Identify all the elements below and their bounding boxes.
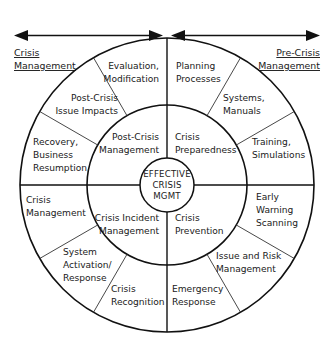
outer-label-5-line2: Recognition <box>111 297 165 307</box>
inner-segment-crisis-preparedness: Crisis Preparedness <box>175 132 237 155</box>
outer-label-10-line2: Manuals <box>223 106 261 116</box>
outer-label-10-line1: Systems, <box>223 93 265 103</box>
axis-label-left-line2: Management <box>14 60 76 71</box>
outer-segment-crisis-recognition: Crisis Recognition <box>111 284 165 307</box>
outer-label-4-line2: Activation/ <box>63 260 113 270</box>
outer-segment-post-crisis-issue-impacts: Post-Crisis Issue Impacts <box>55 93 118 116</box>
inner-label-0-line2: Management <box>99 145 159 155</box>
axis-label-right: Pre-Crisis Management <box>258 47 320 71</box>
outer-label-5-line1: Crisis <box>111 284 136 294</box>
inner-label-1-line1: Crisis <box>175 132 200 142</box>
outer-label-1-line2: Issue Impacts <box>55 106 118 116</box>
center-label-line1: EFFECTIVE <box>143 169 191 179</box>
inner-label-2-line2: Prevention <box>175 226 224 236</box>
outer-label-8-line1: Early <box>256 192 280 202</box>
pre-crisis-management-arrow <box>171 30 320 41</box>
inner-segment-post-crisis-management: Post-Crisis Management <box>99 132 159 155</box>
outer-segment-systems-manuals: Systems, Manuals <box>223 93 265 116</box>
inner-label-0-line1: Post-Crisis <box>112 132 159 142</box>
outer-label-11-line1: Planning <box>176 61 215 71</box>
outer-segment-evaluation-modification: Evaluation, Modification <box>104 61 159 84</box>
inner-segment-crisis-incident-management: Crisis Incident Management <box>95 213 160 236</box>
axis-label-left: Crisis Management <box>14 47 76 71</box>
outer-segment-training-simulations: Training, Simulations <box>251 137 305 160</box>
outer-segment-recovery-business-resumption: Recovery, Business Resumption <box>33 137 87 173</box>
outer-label-11-line2: Processes <box>176 74 221 84</box>
center-label-line3: MGMT <box>153 191 181 201</box>
outer-label-7-line1: Issue and Risk <box>216 251 282 261</box>
outer-label-6-line1: Emergency <box>172 284 224 294</box>
axis-label-right-line2: Management <box>258 60 320 71</box>
outer-label-0-line2: Modification <box>104 74 159 84</box>
outer-label-6-line2: Response <box>172 297 216 307</box>
center-label-line2: CRISIS <box>152 180 181 190</box>
inner-label-3-line2: Management <box>99 226 159 236</box>
outer-label-3-line2: Management <box>26 208 86 218</box>
inner-label-1-line2: Preparedness <box>175 145 237 155</box>
outer-segment-crisis-management: Crisis Management <box>26 195 86 218</box>
axis-label-right-line1: Pre-Crisis <box>276 47 320 58</box>
outer-label-9-line1: Training, <box>251 137 291 147</box>
outer-label-4-line1: System <box>63 247 97 257</box>
outer-label-8-line3: Scanning <box>256 218 298 228</box>
outer-label-9-line2: Simulations <box>252 150 305 160</box>
crisis-management-wheel-diagram: Crisis Management Pre-Crisis Management <box>0 0 334 349</box>
outer-segment-issue-and-risk-management: Issue and Risk Management <box>216 251 282 274</box>
crisis-management-arrow <box>14 30 163 41</box>
outer-label-8-line2: Warning <box>256 205 293 215</box>
inner-label-2-line1: Crisis <box>175 213 200 223</box>
outer-label-1-line1: Post-Crisis <box>71 93 118 103</box>
outer-label-3-line1: Crisis <box>26 195 51 205</box>
inner-segment-crisis-prevention: Crisis Prevention <box>175 213 224 236</box>
outer-segment-planning-processes: Planning Processes <box>176 61 221 84</box>
outer-label-2-line3: Resumption <box>33 163 87 173</box>
outer-segment-system-activation-response: System Activation/ Response <box>63 247 113 283</box>
outer-label-0-line1: Evaluation, <box>108 61 159 71</box>
outer-label-7-line2: Management <box>216 264 276 274</box>
outer-segment-emergency-response: Emergency Response <box>172 284 224 307</box>
axis-label-left-line1: Crisis <box>14 47 39 58</box>
outer-label-2-line2: Business <box>33 150 73 160</box>
outer-label-4-line3: Response <box>63 273 107 283</box>
inner-label-3-line1: Crisis Incident <box>95 213 160 223</box>
outer-label-2-line1: Recovery, <box>33 137 78 147</box>
outer-segment-early-warning-scanning: Early Warning Scanning <box>256 192 298 228</box>
